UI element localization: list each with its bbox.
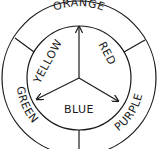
- label-blue: BLUE: [64, 103, 94, 116]
- label-yellow: YELLOW: [30, 37, 65, 86]
- label-green: GREEN: [14, 85, 41, 125]
- arrow-lower-right: [79, 78, 118, 101]
- color-wheel-diagram: ORANGE GREEN PURPLE YELLOW RED BLUE: [0, 0, 158, 149]
- ring-divider-upper-right: [124, 40, 145, 52]
- label-red: RED: [96, 39, 119, 67]
- label-orange: ORANGE: [51, 0, 106, 14]
- ring-divider-upper-left: [15, 38, 34, 52]
